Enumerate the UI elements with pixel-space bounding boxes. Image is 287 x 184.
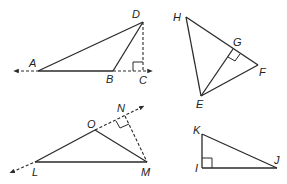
segment-lo bbox=[35, 130, 95, 162]
label-l: L bbox=[32, 166, 38, 178]
figure-triangle-efh: H G F E bbox=[173, 11, 267, 110]
label-b: B bbox=[106, 73, 113, 85]
segment-om bbox=[95, 130, 147, 162]
label-j: J bbox=[273, 154, 280, 166]
label-n: N bbox=[117, 102, 125, 114]
label-f: F bbox=[259, 66, 267, 78]
label-d: D bbox=[132, 8, 140, 20]
label-h: H bbox=[173, 11, 181, 23]
figure-triangle-lmo: N O L M bbox=[12, 102, 151, 178]
label-k: K bbox=[193, 124, 201, 136]
segment-kj bbox=[202, 134, 277, 168]
label-o: O bbox=[87, 118, 96, 130]
right-angle-mark-c bbox=[133, 62, 143, 71]
label-i: I bbox=[195, 162, 198, 174]
label-a: A bbox=[28, 57, 36, 69]
label-e: E bbox=[196, 98, 204, 110]
right-angle-mark-n bbox=[116, 121, 129, 128]
label-g: G bbox=[233, 36, 242, 48]
label-m: M bbox=[141, 166, 151, 178]
right-angle-mark-g bbox=[228, 54, 240, 61]
altitude-eg bbox=[201, 49, 233, 96]
segment-hf bbox=[186, 17, 258, 65]
figure-triangle-abd: A B C D bbox=[16, 8, 150, 86]
right-angle-mark-i bbox=[202, 158, 212, 168]
figure-triangle-ijk: K I J bbox=[193, 124, 280, 174]
geometry-diagram: A B C D H G F E N O L M K I J bbox=[0, 0, 287, 184]
segment-ef bbox=[201, 65, 258, 96]
segment-he bbox=[186, 17, 201, 96]
label-c: C bbox=[139, 74, 147, 86]
